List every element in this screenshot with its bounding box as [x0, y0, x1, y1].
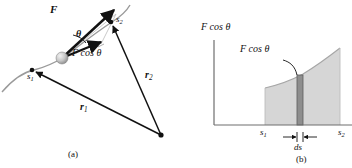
panel-a-graphics [0, 0, 176, 168]
y-axis-label: F cos θ [201, 22, 230, 32]
label-r2: r2 [145, 70, 153, 82]
x-tick-s2-subscript: 2 [342, 131, 345, 138]
panel-a: F θ F cos θ s1 s2 r1 r2 (a) [0, 0, 176, 168]
label-s1: s1 [27, 72, 34, 82]
differential-label: ds [294, 143, 302, 152]
position-vector-r1-arrow [36, 72, 161, 135]
differential-strip [297, 75, 303, 125]
strip-annotation-label: F cos θ [240, 44, 269, 54]
label-s2: s2 [116, 15, 123, 25]
label-r1: r1 [80, 102, 88, 114]
x-tick-s1-subscript: 1 [264, 131, 267, 138]
angle-theta-label: θ [76, 29, 81, 39]
x-tick-label-s2: s2 [338, 128, 345, 138]
position-vector-r2-arrow [113, 26, 161, 135]
x-tick-label-s1: s1 [260, 128, 267, 138]
panel-b-caption: (b) [296, 155, 307, 164]
label-s2-subscript: 2 [120, 18, 123, 25]
label-s1-subscript: 1 [31, 75, 34, 82]
label-r1-subscript: 1 [84, 106, 88, 114]
annotation-leader-line [283, 60, 297, 75]
figure-container: F θ F cos θ s1 s2 r1 r2 (a) [0, 0, 352, 168]
particle-ball [56, 52, 68, 64]
panel-a-caption: (a) [68, 150, 78, 159]
label-r2-subscript: 2 [149, 74, 153, 82]
force-vector-label: F [50, 4, 57, 15]
point-s2 [109, 20, 114, 25]
force-component-label: F cos θ [72, 48, 101, 58]
panel-b: F cos θ F cos θ s1 s2 ds (b) [176, 0, 352, 168]
